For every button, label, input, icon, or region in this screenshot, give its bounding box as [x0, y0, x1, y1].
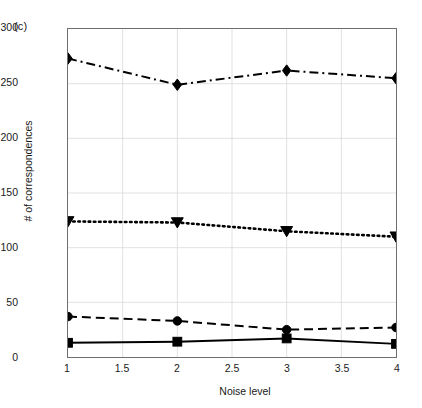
x-tick-label: 3: [267, 363, 307, 374]
y-tick-label: 200: [0, 132, 18, 143]
x-tick-label: 2: [157, 363, 197, 374]
data-point-diamond: [282, 65, 290, 76]
data-point-square: [282, 334, 291, 343]
y-tick-label: 0: [0, 352, 18, 363]
data-point-triangle-down: [390, 232, 396, 242]
y-tick-label: 300: [0, 22, 18, 33]
data-point-square: [68, 338, 72, 347]
plot-area: [67, 28, 397, 358]
x-axis-title: Noise level: [70, 385, 420, 397]
x-tick-label: 1: [47, 363, 87, 374]
y-axis-title: # of correspondences: [22, 71, 34, 271]
y-tick-label: 250: [0, 77, 18, 88]
y-tick-label: 150: [0, 187, 18, 198]
x-tick-label: 3.5: [322, 363, 362, 374]
x-tick-label: 2.5: [212, 363, 252, 374]
y-tick-label: 50: [0, 297, 18, 308]
data-point-diamond: [173, 79, 181, 90]
data-point-circle: [68, 312, 72, 320]
data-point-circle: [173, 317, 181, 325]
x-tick-label: 1.5: [102, 363, 142, 374]
line-chart-svg: [68, 29, 396, 357]
y-tick-label: 100: [0, 242, 18, 253]
x-tick-label: 4: [377, 363, 417, 374]
data-point-circle: [282, 325, 290, 333]
data-point-square: [173, 337, 182, 346]
data-point-square: [392, 339, 396, 348]
data-point-diamond: [68, 53, 72, 64]
figure-panel-c: (c) # of correspondences 050100150200250…: [0, 0, 422, 408]
data-point-diamond: [392, 73, 396, 84]
data-point-circle: [392, 323, 396, 331]
